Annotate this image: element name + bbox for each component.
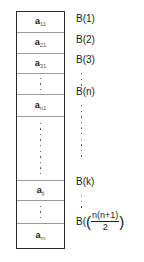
array-element-label: a21 xyxy=(35,38,47,48)
array-element-label: a31 xyxy=(35,59,47,69)
vertical-ellipsis-icon xyxy=(40,76,41,93)
block-label-b2: B(2) xyxy=(76,35,95,45)
close-paren-glyph: ) xyxy=(119,214,124,229)
array-element-subscript: 31 xyxy=(40,63,47,69)
array-element-label: an1 xyxy=(35,101,47,111)
array-element-subscript: 21 xyxy=(40,42,47,48)
array-element-label: aij xyxy=(37,186,45,196)
array-cell-a31[interactable]: a31 xyxy=(17,54,64,74)
array-element-subscript: ij xyxy=(42,190,45,196)
array-element-subscript: n1 xyxy=(40,105,47,111)
array-cell-an1[interactable]: an1 xyxy=(17,95,64,117)
vertical-ellipsis-icon xyxy=(40,204,41,221)
block-label-b3: B(3) xyxy=(76,55,95,65)
label-ellipsis-2 xyxy=(81,103,82,159)
array-element-label: a11 xyxy=(35,17,46,27)
fraction: n(n+1) 2 xyxy=(91,211,119,232)
array-element-subscript: 11 xyxy=(40,21,46,27)
array-cell-ellipsis-2 xyxy=(17,117,64,181)
fraction-numerator: n(n+1) xyxy=(91,211,119,222)
block-label-column: B(1) B(2) B(3) B(n) B(k) B( ( n(n+1) 2 ) xyxy=(76,11,144,249)
array-cell-a21[interactable]: a21 xyxy=(17,33,64,54)
block-label-bn: B(n) xyxy=(76,87,95,97)
label-ellipsis-3 xyxy=(81,193,82,210)
vertical-ellipsis-icon xyxy=(40,121,41,177)
array-cell-am[interactable]: am xyxy=(17,224,64,247)
array-element-label: am xyxy=(35,231,45,241)
array-element-subscript: m xyxy=(41,235,46,241)
block-label-b1: B(1) xyxy=(76,14,95,24)
array-cell-ellipsis-1 xyxy=(17,74,64,95)
array-cell-ellipsis-3 xyxy=(17,201,64,224)
array-block-diagram: a11 a21 a31 an1 aij am B(1) B(2) xyxy=(0,0,144,262)
block-label-prefix: B( xyxy=(76,217,86,227)
array-cell-a11[interactable]: a11 xyxy=(17,12,64,33)
block-label-b-total: B( ( n(n+1) 2 ) xyxy=(76,211,124,232)
block-label-bk: B(k) xyxy=(76,177,94,187)
fraction-denominator: 2 xyxy=(103,222,108,232)
array-cell-aij[interactable]: aij xyxy=(17,181,64,201)
array-box: a11 a21 a31 an1 aij am xyxy=(16,11,65,249)
